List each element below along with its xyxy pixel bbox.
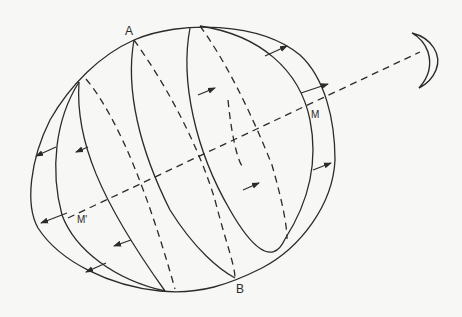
moon-crescent-icon	[412, 33, 438, 88]
label-m: M	[311, 109, 319, 120]
label-a: A	[125, 24, 133, 38]
arrow-lower-right-outer	[313, 163, 331, 170]
label-b: B	[236, 282, 244, 296]
arrow-upper-inner	[198, 88, 215, 95]
arrow-upper-outer	[265, 46, 287, 56]
diagram-canvas: A B M M'	[0, 0, 462, 317]
arrow-lower-inner	[114, 240, 131, 246]
arrow-left-inner	[76, 147, 88, 152]
arrow-lower-outer	[86, 263, 106, 272]
tidal-diagram: A B M M'	[0, 0, 462, 317]
earth-outline	[31, 27, 335, 292]
arrow-lower-right-inner	[243, 183, 259, 190]
label-m-prime: M'	[77, 214, 87, 225]
